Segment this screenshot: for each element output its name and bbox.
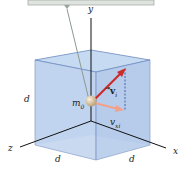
velocity-x-label: vxi [110,118,120,129]
cube-left-face [35,60,96,160]
string-anchor-icon [64,5,70,9]
mass-ball [86,96,97,107]
x-axis-label: x [173,147,178,156]
y-axis-label: y [88,5,93,14]
side-length-bottom-right: d [129,155,135,164]
diagram-graphic [0,0,186,173]
side-length-bottom-left: d [55,155,61,164]
velocity-label: ⃗vi [110,87,117,98]
z-axis-label: z [8,144,13,153]
cube-projectile-diagram: y x z d d d m0 ⃗vi vxi [0,0,186,173]
mass-label: m0 [72,99,84,110]
side-length-left: d [24,95,30,104]
